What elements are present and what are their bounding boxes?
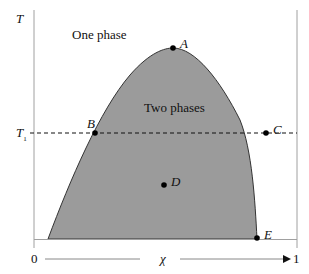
point-b-label: B <box>87 117 95 130</box>
point-b <box>92 130 98 136</box>
x-min-label: 0 <box>31 252 38 265</box>
phase-diagram-canvas <box>0 0 309 274</box>
point-d-label: D <box>171 175 180 188</box>
x-max-label: 1 <box>293 252 300 265</box>
arrow-head-icon <box>283 255 291 263</box>
point-a <box>170 45 176 51</box>
x-axis-label: χ <box>160 252 166 265</box>
point-d <box>161 182 167 188</box>
point-e-label: E <box>264 228 272 241</box>
point-c <box>263 130 269 136</box>
one-phase-label: One phase <box>72 28 127 41</box>
t1-label: T1 <box>16 126 27 143</box>
two-phase-region <box>48 48 257 239</box>
point-c-label: C <box>273 123 282 136</box>
point-a-label: A <box>180 37 188 50</box>
y-axis-label: T <box>16 12 23 25</box>
two-phases-label: Two phases <box>144 101 205 114</box>
point-e <box>254 235 260 241</box>
